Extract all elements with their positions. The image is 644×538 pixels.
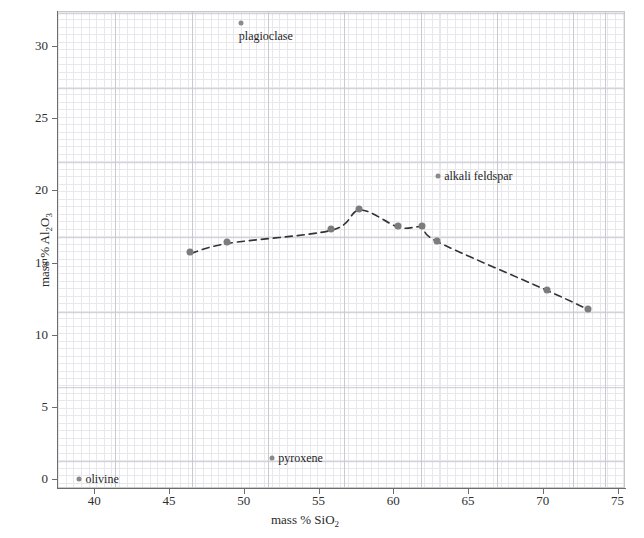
x-axis-tick-label: 50 (237, 493, 250, 509)
data-point (418, 223, 425, 230)
data-point-olivine (77, 476, 82, 481)
x-axis-title: mass % SiO2 (271, 512, 339, 528)
y-axis-tick-label: 5 (42, 399, 49, 415)
data-point (544, 286, 551, 293)
y-axis-tick (52, 479, 57, 480)
data-point (355, 206, 362, 213)
x-axis-tick-label: 55 (312, 493, 325, 509)
y-axis-tick-label: 30 (35, 38, 48, 54)
data-point (394, 223, 401, 230)
data-point (433, 237, 440, 244)
annotation-label-olivine: olivine (85, 472, 118, 487)
y-axis-tick (52, 118, 57, 119)
chart-root: 4045505560657075051015202530 olivinepyro… (0, 0, 644, 538)
data-point-alkali-feldspar (436, 173, 441, 178)
x-axis-tick-label: 70 (536, 493, 549, 509)
trend-line-dashed (191, 210, 589, 310)
data-point (327, 226, 334, 233)
plot-area (57, 11, 625, 488)
y-axis-tick (52, 407, 57, 408)
annotation-label-plagioclase: plagioclase (239, 29, 293, 44)
trend-line-layer (58, 12, 625, 488)
data-point-pyroxene (270, 455, 275, 460)
x-axis-tick-label: 75 (611, 493, 624, 509)
y-axis-tick (52, 46, 57, 47)
annotation-label-alkali-feldspar: alkali feldspar (444, 169, 512, 184)
x-axis-tick-label: 40 (88, 493, 101, 509)
y-axis-tick-label: 25 (35, 110, 48, 126)
y-axis-tick-label: 0 (42, 471, 49, 487)
y-axis-line (57, 11, 58, 489)
data-point (224, 239, 231, 246)
x-axis-tick-label: 65 (462, 493, 475, 509)
x-axis-line (57, 488, 626, 489)
x-axis-title-text: mass % SiO2 (271, 512, 339, 527)
y-axis-title-text: mass % Al2O3 (37, 213, 52, 287)
y-axis-tick-label: 20 (35, 182, 48, 198)
data-point-plagioclase (238, 20, 243, 25)
y-axis-title: mass % Al2O3 (37, 213, 53, 287)
x-axis-tick-label: 45 (163, 493, 176, 509)
data-point (584, 305, 591, 312)
data-point (187, 249, 194, 256)
y-axis-tick (52, 190, 57, 191)
y-axis-tick (52, 335, 57, 336)
x-axis-tick-label: 60 (387, 493, 400, 509)
y-axis-tick-label: 10 (35, 327, 48, 343)
annotation-label-pyroxene: pyroxene (278, 451, 323, 466)
